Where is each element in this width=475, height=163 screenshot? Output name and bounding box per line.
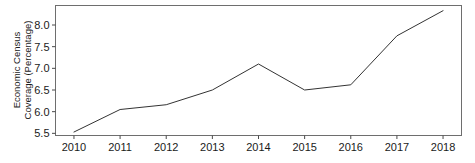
y-tick-label: 7.5 (34, 41, 49, 53)
y-axis-tickmarks (52, 25, 56, 133)
y-tick-label: 8.0 (34, 19, 49, 31)
y-tick-label: 5.5 (34, 127, 49, 139)
x-tick-label: 2012 (154, 141, 178, 153)
y-tick-label: 7.0 (34, 62, 49, 74)
x-tick-label: 2015 (292, 141, 316, 153)
x-tick-label: 2010 (62, 141, 86, 153)
y-tick-label: 6.5 (34, 84, 49, 96)
y-axis-title: Economic Census Coverage (Percentage) (11, 21, 33, 120)
y-axis-tick-labels: 5.56.06.57.07.58.0 (34, 19, 49, 139)
x-tick-label: 2014 (246, 141, 270, 153)
chart-canvas: 5.56.06.57.07.58.0 201020112012201320142… (0, 0, 475, 163)
y-axis-title-line1: Economic Census (11, 31, 22, 108)
line-chart: 5.56.06.57.07.58.0 201020112012201320142… (0, 0, 475, 163)
y-tick-label: 6.0 (34, 106, 49, 118)
x-axis-tickmarks (74, 136, 443, 140)
x-tick-label: 2018 (431, 141, 455, 153)
x-axis-tick-labels: 201020112012201320142015201620172018 (62, 141, 456, 153)
y-axis-title-line2: Coverage (Percentage) (22, 21, 33, 120)
x-tick-label: 2011 (108, 141, 132, 153)
x-tick-label: 2017 (385, 141, 409, 153)
plot-background (56, 6, 462, 136)
x-tick-label: 2016 (339, 141, 363, 153)
x-tick-label: 2013 (200, 141, 224, 153)
